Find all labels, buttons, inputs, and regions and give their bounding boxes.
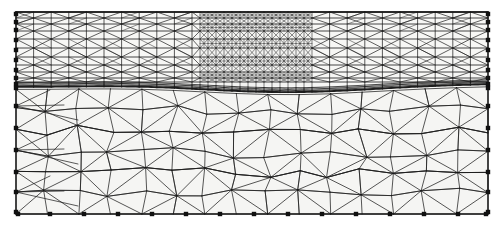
- right-node-marker: [486, 58, 490, 62]
- left-node-marker: [14, 38, 18, 42]
- right-node-marker: [486, 148, 490, 152]
- right-node-marker: [486, 126, 490, 130]
- bottom-node-marker: [48, 212, 52, 216]
- right-node-marker: [486, 104, 490, 108]
- right-node-marker: [486, 12, 490, 16]
- bottom-node-marker: [388, 212, 392, 216]
- left-node-marker: [14, 126, 18, 130]
- left-node-marker: [14, 86, 18, 90]
- left-node-marker: [14, 20, 18, 24]
- bottom-node-marker: [184, 212, 188, 216]
- bottom-node-marker: [82, 212, 86, 216]
- right-node-marker: [486, 82, 490, 86]
- right-node-marker: [486, 170, 490, 174]
- right-node-marker: [486, 48, 490, 52]
- left-node-marker: [14, 68, 18, 72]
- right-node-marker: [486, 190, 490, 194]
- left-node-marker: [14, 148, 18, 152]
- left-node-marker: [14, 48, 18, 52]
- bottom-node-marker: [150, 212, 154, 216]
- bottom-node-marker: [354, 212, 358, 216]
- left-node-marker: [14, 76, 18, 80]
- bottom-node-marker: [320, 212, 324, 216]
- left-node-marker: [14, 82, 18, 86]
- left-node-marker: [14, 12, 18, 16]
- right-node-marker: [486, 76, 490, 80]
- right-node-marker: [486, 20, 490, 24]
- left-node-marker: [14, 190, 18, 194]
- bottom-node-marker: [218, 212, 222, 216]
- left-node-marker: [14, 210, 18, 214]
- left-node-marker: [14, 104, 18, 108]
- bottom-node-marker: [252, 212, 256, 216]
- mesh-canvas: [0, 0, 504, 234]
- right-node-marker: [486, 28, 490, 32]
- bottom-node-marker: [422, 212, 426, 216]
- left-node-marker: [14, 170, 18, 174]
- bottom-node-marker: [456, 212, 460, 216]
- right-node-marker: [486, 210, 490, 214]
- left-node-marker: [14, 28, 18, 32]
- mesh-edge: [233, 158, 263, 159]
- right-node-marker: [486, 86, 490, 90]
- right-node-marker: [486, 68, 490, 72]
- bottom-node-marker: [286, 212, 290, 216]
- left-node-marker: [14, 58, 18, 62]
- mesh-figure: [0, 0, 504, 234]
- bottom-node-marker: [116, 212, 120, 216]
- right-node-marker: [486, 38, 490, 42]
